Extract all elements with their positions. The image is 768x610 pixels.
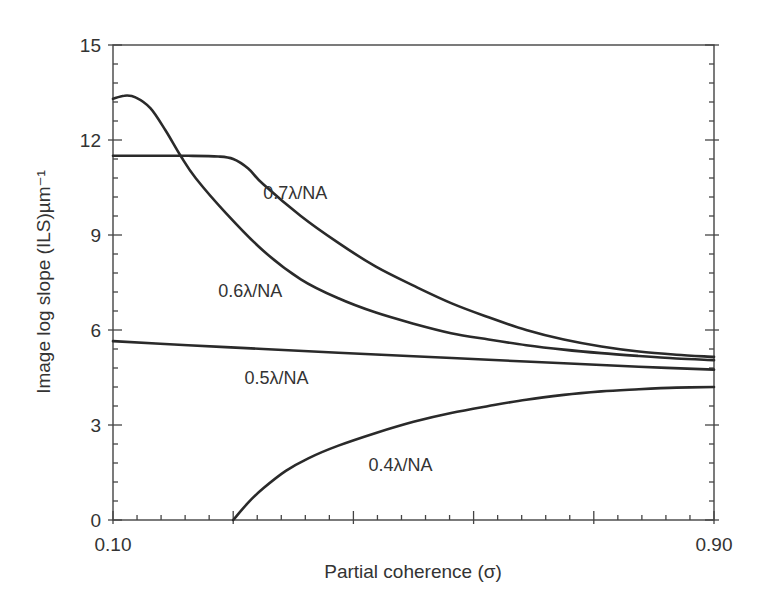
y-tick-label: 15 xyxy=(80,35,101,56)
curve-04 xyxy=(233,387,714,520)
x-tick-label: 0.10 xyxy=(95,534,132,555)
y-tick-label: 3 xyxy=(90,415,101,436)
chart-canvas: 036912150.100.90 0.7λ/NA0.6λ/NA0.5λ/NA0.… xyxy=(0,0,768,610)
plot-frame xyxy=(113,45,714,520)
curve-label: 0.7λ/NA xyxy=(263,183,327,203)
y-tick-label: 9 xyxy=(90,225,101,246)
tick-labels: 036912150.100.90 xyxy=(80,35,733,555)
y-axis-title: Image log slope (ILS)µm⁻¹ xyxy=(33,170,54,394)
x-tick-label: 0.90 xyxy=(696,534,733,555)
curve-labels: 0.7λ/NA0.6λ/NA0.5λ/NA0.4λ/NA xyxy=(218,183,432,475)
x-axis-title: Partial coherence (σ) xyxy=(324,561,502,582)
y-tick-label: 6 xyxy=(90,320,101,341)
y-tick-label: 12 xyxy=(80,130,101,151)
curve-label: 0.4λ/NA xyxy=(368,455,432,475)
curve-label: 0.6λ/NA xyxy=(218,281,282,301)
curve-label: 0.5λ/NA xyxy=(244,368,308,388)
plot-area-border xyxy=(113,45,714,520)
y-tick-label: 0 xyxy=(90,510,101,531)
curve-06 xyxy=(113,95,714,360)
